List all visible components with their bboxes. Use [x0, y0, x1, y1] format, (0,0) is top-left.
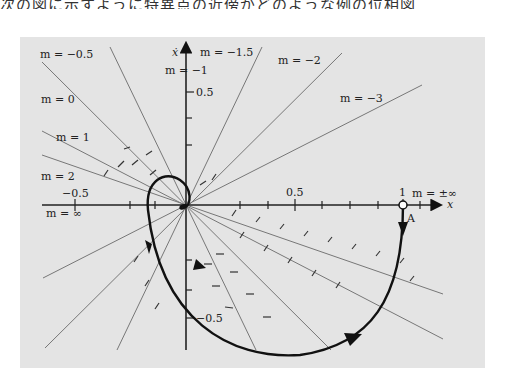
labels: m = −0.5 m = −1 m = −1.5 m = −2 m = −3 m… [40, 46, 457, 325]
x-tick-1: 1 [399, 186, 406, 199]
label-m-neg15: m = −1.5 [200, 46, 253, 59]
point-a-label: A [406, 212, 416, 225]
x-axis-label: x [447, 198, 454, 211]
y-tick-05: 0.5 [196, 86, 214, 99]
label-m-neg3: m = −3 [340, 92, 383, 105]
label-m1: m = 1 [56, 131, 90, 144]
y-tick-neg05: −0.5 [196, 312, 223, 325]
x-tick-05: 0.5 [286, 186, 304, 199]
trajectory-arrows [145, 222, 408, 346]
point-a-marker [399, 201, 407, 209]
phase-plane-diagram: m = −0.5 m = −1 m = −1.5 m = −2 m = −3 m… [0, 0, 505, 377]
x-tick-neg05: −0.5 [62, 187, 89, 200]
isocline-m-neg2 [45, 53, 342, 348]
isocline-m-neg3 [43, 85, 422, 278]
label-m-neg1: m = −1 [165, 64, 208, 77]
label-m0: m = 0 [41, 93, 75, 106]
label-m-neg05: m = −0.5 [40, 48, 93, 61]
label-m-inf: m = ∞ [46, 207, 82, 220]
label-m2: m = 2 [41, 170, 75, 183]
y-axis-label: ẋ [172, 46, 179, 59]
label-m-neg2: m = −2 [278, 54, 321, 67]
